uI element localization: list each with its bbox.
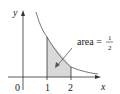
tick-1-label: 1 bbox=[45, 82, 50, 93]
area-diagram: y x 0 1 2 area = 1 2 bbox=[0, 0, 120, 94]
y-label: y bbox=[12, 7, 18, 18]
fraction-denominator: 2 bbox=[108, 44, 112, 52]
fraction-numerator: 1 bbox=[108, 34, 112, 42]
x-axis-arrow-icon bbox=[95, 75, 101, 79]
x-label: x bbox=[100, 81, 106, 92]
origin-label: 0 bbox=[15, 82, 20, 93]
y-axis-arrow-icon bbox=[21, 10, 25, 16]
area-label: area = bbox=[77, 36, 102, 47]
tick-2-label: 2 bbox=[68, 82, 73, 93]
